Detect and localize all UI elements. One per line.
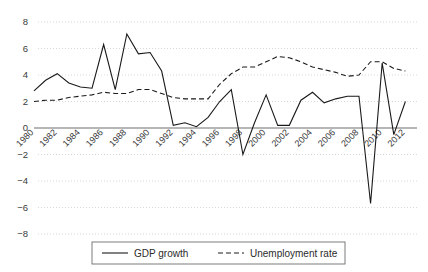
- series-line-gdp-growth: [34, 34, 405, 204]
- line-chart: 86420−2−4−6−8 19801982198419861988199019…: [0, 0, 428, 272]
- x-tick-label: 1986: [84, 127, 105, 148]
- y-tick-label: 6: [23, 43, 28, 54]
- y-tick-label: −8: [17, 228, 28, 239]
- x-tick-label: 1990: [130, 127, 151, 148]
- legend-label-unemployment-rate: Unemployment rate: [250, 248, 338, 259]
- x-tick-label: 2012: [386, 127, 407, 148]
- y-tick-label: −4: [17, 175, 28, 186]
- y-tick-label: 8: [23, 16, 28, 27]
- y-tick-label: 4: [23, 69, 28, 80]
- x-tick-label: 2002: [270, 127, 291, 148]
- x-tick-label: 2004: [293, 127, 314, 148]
- y-axis-tick-labels: 86420−2−4−6−8: [17, 16, 28, 239]
- x-tick-label: 1982: [37, 127, 58, 148]
- x-tick-label: 1996: [200, 127, 221, 148]
- chart-legend: GDP growth Unemployment rate: [92, 242, 345, 264]
- y-tick-label: −2: [17, 149, 28, 160]
- y-tick-label: 2: [23, 96, 28, 107]
- chart-container: 86420−2−4−6−8 19801982198419861988199019…: [0, 0, 428, 272]
- x-tick-label: 2010: [362, 127, 383, 148]
- legend-label-gdp-growth: GDP growth: [134, 248, 188, 259]
- data-series-group: [34, 34, 405, 204]
- x-tick-label: 1984: [61, 127, 82, 148]
- series-line-unemployment-rate: [34, 56, 405, 101]
- x-tick-label: 1992: [153, 127, 174, 148]
- x-tick-label: 1994: [177, 127, 198, 148]
- x-axis-tick-labels: 1980198219841986198819901992199419961998…: [14, 127, 407, 148]
- x-tick-label: 2006: [316, 127, 337, 148]
- y-tick-label: −6: [17, 202, 28, 213]
- x-tick-label: 1980: [14, 127, 35, 148]
- x-tick-label: 2008: [339, 127, 360, 148]
- x-tick-label: 1988: [107, 127, 128, 148]
